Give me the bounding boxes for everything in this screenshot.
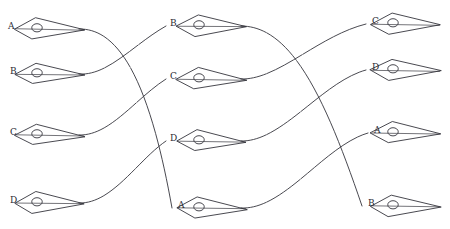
dart-glyph-2-1 — [370, 59, 441, 80]
node-label-middle-column-3: A — [178, 201, 185, 210]
connector-e3[interactable] — [79, 79, 166, 135]
connector-e5[interactable] — [241, 26, 362, 206]
dart-outline — [176, 15, 246, 37]
node-label-middle-column-2: D — [170, 134, 177, 143]
node-label-right-column-3: B — [368, 199, 375, 208]
diagram-canvas-area: ABCDBCDACDAB — [0, 0, 450, 229]
dart-eye-circle — [32, 69, 43, 77]
dart-eye-circle — [32, 198, 43, 206]
node-label-left-column-0: A — [8, 22, 15, 31]
dart-outline — [15, 18, 85, 39]
dart-outline — [177, 197, 247, 218]
node-label-left-column-2: C — [10, 128, 17, 137]
dart-outline — [177, 130, 246, 151]
dart-crease — [178, 208, 246, 209]
dart-glyph-2-0 — [371, 13, 440, 34]
dart-crease — [16, 74, 84, 75]
right-column — [370, 13, 441, 217]
dart-glyph-0-0 — [15, 18, 85, 39]
dart-glyph-1-3 — [177, 197, 247, 218]
dart-eye-circle — [194, 203, 205, 211]
node-label-right-column-2: A — [374, 126, 381, 135]
dart-glyph-1-1 — [176, 67, 247, 88]
node-label-left-column-1: B — [10, 67, 17, 76]
middle-column — [176, 15, 247, 218]
dart-outline — [15, 192, 84, 214]
dart-glyph-0-1 — [15, 63, 85, 83]
dart-glyph-2-3 — [371, 195, 441, 216]
dart-eye-circle — [388, 128, 399, 136]
dart-crease — [372, 70, 440, 71]
dart-glyph-0-2 — [15, 124, 85, 144]
dart-glyph-1-2 — [177, 130, 246, 151]
dart-eye-circle — [194, 136, 205, 144]
edge-layer — [79, 24, 368, 208]
dart-crease — [177, 79, 245, 80]
node-label-left-column-3: D — [10, 196, 17, 205]
dart-crease — [15, 135, 84, 136]
dart-crease — [371, 206, 439, 207]
dart-crease — [178, 141, 245, 142]
dart-eye-circle — [388, 201, 399, 209]
node-label-right-column-1: D — [372, 63, 379, 72]
dart-outline — [371, 13, 440, 34]
dart-outline — [15, 63, 85, 83]
dart-crease — [16, 203, 83, 204]
node-label-middle-column-1: C — [170, 72, 177, 81]
dart-outline — [176, 67, 247, 88]
permutation-diagram-svg — [0, 0, 450, 229]
connector-e1[interactable] — [79, 29, 172, 208]
glyph-layer — [15, 13, 442, 218]
node-label-right-column-0: C — [372, 17, 379, 26]
dart-outline — [370, 59, 441, 80]
dart-crease — [16, 29, 84, 30]
connector-e2[interactable] — [79, 26, 166, 74]
dart-glyph-0-3 — [15, 192, 84, 214]
connector-e8[interactable] — [241, 133, 368, 208]
dart-outline — [15, 124, 85, 144]
dart-eye-circle — [32, 130, 43, 138]
dart-eye-circle — [388, 65, 399, 73]
dart-eye-circle — [32, 24, 43, 32]
node-label-middle-column-0: B — [170, 19, 177, 28]
dart-eye-circle — [194, 74, 205, 82]
dart-eye-circle — [194, 21, 205, 29]
dart-crease — [372, 133, 440, 134]
connector-e4[interactable] — [79, 141, 166, 203]
connector-e7[interactable] — [241, 70, 366, 141]
dart-crease — [371, 24, 439, 25]
dart-glyph-1-0 — [176, 15, 246, 37]
left-column — [15, 18, 85, 214]
dart-eye-circle — [388, 19, 399, 27]
